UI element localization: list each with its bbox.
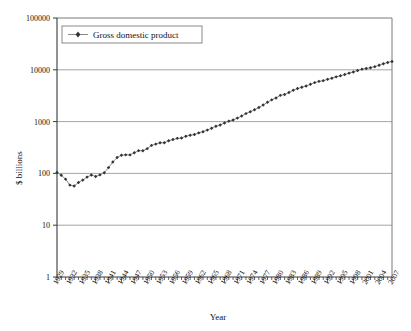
gdp-log-chart: 110100100010000100000 192919321935193819…: [0, 0, 411, 331]
plot-background: [57, 18, 392, 277]
y-tick-label: 10: [42, 221, 50, 230]
y-tick-label: 1: [46, 273, 50, 282]
x-axis-title: Year: [210, 312, 227, 322]
y-axis-title: $ billions: [14, 151, 24, 185]
chart-page: 110100100010000100000 192919321935193819…: [0, 0, 411, 331]
y-tick-label: 10000: [30, 66, 50, 75]
y-tick-label: 100000: [26, 14, 50, 23]
y-axis-tick-labels: 110100100010000100000: [26, 14, 50, 282]
legend-box: Gross domestic product: [62, 26, 202, 43]
y-tick-label: 100: [38, 169, 50, 178]
y-axis-ticks: [53, 18, 57, 277]
legend-label: Gross domestic product: [93, 30, 179, 40]
y-tick-label: 1000: [34, 118, 50, 127]
